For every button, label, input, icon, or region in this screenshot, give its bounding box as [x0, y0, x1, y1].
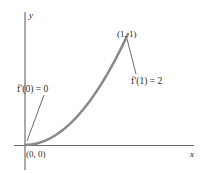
diagram-canvas: y x (1, 1) (0, 0) f′(0) = 0 f′(1) = 2	[0, 0, 208, 173]
start-slope-annotation: f′(0) = 0	[17, 84, 48, 95]
x-axis-label: x	[189, 149, 194, 159]
y-axis-label: y	[28, 10, 33, 20]
end-point-label: (1, 1)	[117, 29, 137, 39]
end-slope-annotation: f′(1) = 2	[131, 76, 162, 87]
origin-label: (0, 0)	[26, 149, 46, 159]
leader-line-end-slope	[127, 39, 136, 74]
leader-line-start-slope	[27, 95, 44, 141]
